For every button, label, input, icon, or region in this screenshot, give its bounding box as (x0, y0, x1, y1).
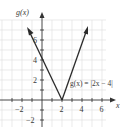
left-arrowhead-icon (27, 27, 34, 36)
tick-label-x-4: 4 (80, 105, 84, 114)
tick-label-x-neg2: −2 (15, 105, 24, 114)
tick-label-y-6: 6 (33, 36, 37, 45)
x-axis-label: x (115, 101, 120, 110)
tick-label-x-2: 2 (60, 105, 64, 114)
ticks (12, 30, 102, 120)
graph: g(x) x g(x) = |2x − 4| −2 2 4 6 6 4 2 −2 (0, 0, 127, 127)
tick-label-y-neg2: −2 (26, 116, 35, 125)
tick-label-x-6: 6 (100, 105, 104, 114)
tick-label-y-4: 4 (33, 56, 37, 65)
y-axis-label: g(x) (16, 8, 29, 17)
equation-label: g(x) = |2x − 4| (70, 79, 113, 88)
y-axis-arrow-icon (40, 12, 45, 18)
tick-label-y-2: 2 (33, 76, 37, 85)
